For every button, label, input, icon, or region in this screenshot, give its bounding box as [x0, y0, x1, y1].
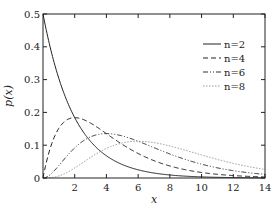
x-tick-label: 6 — [135, 182, 141, 193]
x-tick-label: 4 — [103, 182, 109, 193]
legend-label: n=6 — [224, 67, 245, 78]
y-tick-label: 0.4 — [24, 41, 40, 52]
y-tick-label: 0.3 — [24, 74, 40, 85]
x-tick-label: 2 — [72, 182, 78, 193]
x-tick-label: 14 — [259, 182, 272, 193]
y-tick-label: 0 — [34, 173, 40, 184]
y-tick-label: 0.1 — [24, 140, 40, 151]
x-tick-label: 8 — [167, 182, 173, 193]
chart: 246810121400.10.20.30.40.5 x p(x) n=2n=4… — [0, 0, 278, 212]
y-axis-label: p(x) — [2, 85, 15, 107]
x-tick-label: 10 — [195, 182, 208, 193]
tick-labels: 246810121400.10.20.30.40.5 — [24, 9, 271, 194]
y-tick-label: 0.2 — [24, 107, 40, 118]
legend-label: n=2 — [224, 39, 245, 50]
curve-n-6 — [43, 134, 265, 178]
x-axis-label: x — [151, 193, 158, 206]
legend-label: n=4 — [224, 53, 245, 64]
legend-label: n=8 — [224, 81, 245, 92]
x-tick-label: 12 — [227, 182, 240, 193]
y-tick-label: 0.5 — [24, 9, 40, 20]
legend: n=2n=4n=6n=8 — [203, 39, 245, 92]
